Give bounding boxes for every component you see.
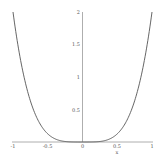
- x-tick-label: 1: [150, 143, 153, 149]
- y-tick-label: 2: [77, 9, 80, 15]
- y-tick-label: 1: [77, 74, 80, 80]
- y-tick-label: 0.5: [72, 107, 80, 113]
- y-tick-labels: 0.5 1 1.5 2: [72, 9, 80, 113]
- chart: -1 -0.5 0 0.5 1 x 0.5 1 1.5 2: [0, 0, 163, 162]
- x-tick-label: 0: [81, 143, 84, 149]
- x-axis-label: x: [116, 149, 119, 155]
- x-tick-label: -0.5: [43, 143, 53, 149]
- x-tick-labels: -1 -0.5 0 0.5 1 x: [11, 143, 154, 155]
- x-tick-label: -1: [11, 143, 16, 149]
- y-tick-label: 1.5: [72, 41, 80, 47]
- axes: [12, 12, 153, 142]
